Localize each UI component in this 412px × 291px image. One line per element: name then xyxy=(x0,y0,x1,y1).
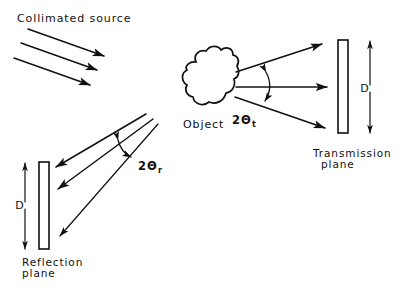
transmission-angle-sub: t xyxy=(252,120,257,129)
transmission-ray-upper xyxy=(236,44,322,72)
reflection-ray-lower xyxy=(60,124,158,236)
transmission-angle-main: 2Θ xyxy=(232,113,252,127)
transmission-extent-label: D xyxy=(360,82,369,95)
source-beam-1 xyxy=(28,29,104,56)
reflection-plane-label-line2: plane xyxy=(22,267,56,279)
reflection-angle-main: 2Θ xyxy=(138,159,158,173)
scattering-geometry-figure: Collimated source Object 2Θt D Transmi xyxy=(0,0,412,291)
reflection-ray-middle xyxy=(58,119,153,189)
transmission-plane-plate xyxy=(338,40,348,133)
transmission-plane-label-line2: plane xyxy=(321,158,355,170)
transmission-ray-group: 2Θt xyxy=(232,44,327,129)
object-label: Object xyxy=(183,118,224,131)
source-beam-2 xyxy=(21,43,97,70)
figure-canvas: Collimated source Object 2Θt D Transmi xyxy=(0,0,412,291)
collimated-source-group: Collimated source xyxy=(14,12,131,85)
source-beam-3 xyxy=(14,58,90,85)
reflection-ray-upper xyxy=(56,114,146,167)
transmission-angle-label: 2Θt xyxy=(232,113,257,129)
object-blob xyxy=(183,46,239,104)
reflection-angle-sub: r xyxy=(158,166,163,175)
transmission-plane-group: D Transmission plane xyxy=(312,40,392,170)
collimated-source-label: Collimated source xyxy=(17,12,131,25)
reflection-ray-group: 2Θr xyxy=(56,114,163,236)
reflection-plane-plate xyxy=(39,162,49,249)
object-group: Object xyxy=(183,46,239,131)
reflection-extent-label: D xyxy=(15,199,24,212)
reflection-angle-label: 2Θr xyxy=(138,159,163,175)
